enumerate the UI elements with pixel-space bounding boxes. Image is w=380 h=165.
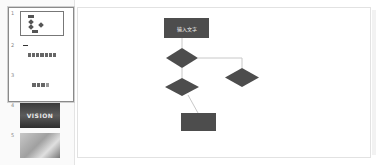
decision-diamond-2 <box>225 68 259 87</box>
start-box-label: 输入文字 <box>177 25 197 32</box>
decision-diamond-1 <box>166 48 198 68</box>
start-box[interactable]: 输入文字 <box>164 18 209 38</box>
end-box[interactable] <box>181 113 216 131</box>
decision-diamond-3 <box>165 78 199 96</box>
